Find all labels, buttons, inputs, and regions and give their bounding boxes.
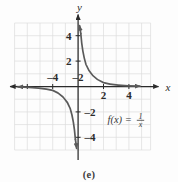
- ytick-label-4: 4: [66, 30, 72, 42]
- figure-caption: (e): [0, 169, 178, 180]
- figure-graph-of-one-over-x: –4 –2 2 4 4 2 –2 –4 y x f(x) = 1 x (e): [0, 0, 178, 182]
- ytick-label-minus4: –4: [84, 131, 97, 143]
- function-label-lhs: f(x) =: [108, 114, 132, 126]
- ytick-label-2: 2: [66, 55, 72, 67]
- xtick-label-4: 4: [126, 89, 132, 101]
- function-label-denominator: x: [138, 120, 143, 129]
- curve-branch-negative: [18, 87, 75, 140]
- y-axis-label: y: [76, 1, 82, 13]
- function-annotation: f(x) = 1 x: [108, 112, 145, 130]
- curve-branch-positive-tail: [80, 26, 81, 34]
- function-label-numerator: 1: [139, 112, 143, 121]
- curve-branch-positive: [81, 34, 140, 87]
- x-axis-label: x: [165, 81, 171, 93]
- curve-branch-negative-tail: [75, 140, 76, 149]
- ytick-label-minus2: –2: [84, 106, 97, 118]
- xtick-label-minus4: –4: [46, 71, 59, 83]
- xtick-label-minus2: –2: [72, 71, 85, 83]
- plot-area: –4 –2 2 4 4 2 –2 –4 y x f(x) = 1 x: [0, 0, 178, 182]
- xtick-label-2: 2: [101, 89, 107, 101]
